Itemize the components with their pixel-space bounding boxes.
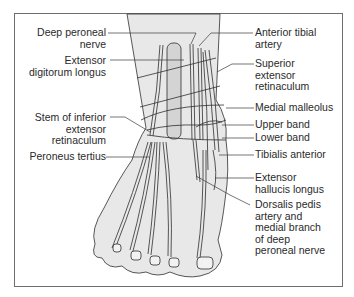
label-superior-extensor-retinaculum: Superior extensor retinaculum xyxy=(255,58,309,93)
label-lower-band: Lower band xyxy=(255,132,310,144)
label-stem-inferior-extensor-retinaculum: Stem of inferior extensor retinaculum xyxy=(35,112,106,147)
label-dorsalis-pedis: Dorsalis pedis artery and medial branch … xyxy=(255,199,325,257)
label-anterior-tibial-artery: Anterior tibial artery xyxy=(255,27,316,50)
label-extensor-hallucis-longus: Extensor hallucis longus xyxy=(255,172,324,195)
tibia-bone xyxy=(167,43,181,139)
label-deep-peroneal-nerve: Deep peroneal nerve xyxy=(37,27,106,50)
label-peroneus-tertius: Peroneus tertius xyxy=(30,151,106,163)
label-medial-malleolus: Medial malleolus xyxy=(255,102,333,114)
label-upper-band: Upper band xyxy=(255,119,310,131)
label-extensor-digitorum-longus: Extensor digitorum longus xyxy=(29,55,106,78)
label-tibialis-anterior: Tibialis anterior xyxy=(255,149,326,161)
